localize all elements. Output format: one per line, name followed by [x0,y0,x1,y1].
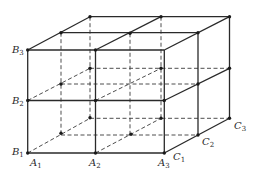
label-c3: C3 [234,121,246,133]
label-b1: B1 [12,147,24,159]
label-c1: C1 [173,152,185,164]
label-b3: B3 [12,45,24,57]
label-c2: C2 [202,137,214,149]
label-a1: A1 [30,158,42,170]
label-a3: A3 [158,158,170,170]
label-a2: A2 [89,158,101,170]
lattice-drawing [0,0,253,183]
label-b2: B2 [12,96,24,108]
cube-lattice-diagram: B3 B2 B1 A1 A2 A3 C1 C2 C3 [0,0,253,183]
